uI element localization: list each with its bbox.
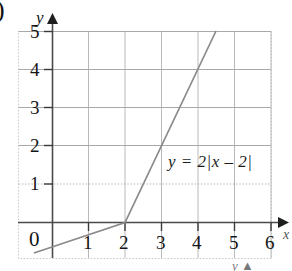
stray-bottom-fragment: y ▲ bbox=[232, 259, 254, 271]
x-tick-label-4: 4 bbox=[192, 233, 202, 252]
y-tick-label-1: 1 bbox=[30, 174, 40, 193]
y-axis-ticks bbox=[44, 32, 53, 185]
x-tick-label-6: 6 bbox=[265, 233, 275, 252]
origin-label-0: 0 bbox=[29, 229, 40, 250]
x-axis-label: x bbox=[283, 228, 289, 242]
y-tick-label-4: 4 bbox=[30, 60, 40, 79]
x-tick-label-1: 1 bbox=[83, 233, 93, 252]
graph-figure: ) bbox=[0, 0, 292, 271]
x-tick-label-2: 2 bbox=[119, 233, 129, 252]
y-tick-label-3: 3 bbox=[30, 98, 40, 117]
equation-annotation: y = 2|x – 2| bbox=[168, 153, 252, 170]
vertical-gridlines bbox=[89, 32, 272, 259]
y-tick-label-2: 2 bbox=[30, 136, 40, 155]
x-axis-ticks bbox=[89, 223, 272, 232]
y-axis-label: y bbox=[36, 9, 44, 26]
y-axis bbox=[47, 13, 58, 258]
x-tick-label-3: 3 bbox=[156, 233, 166, 252]
x-axis bbox=[18, 217, 289, 228]
y-axis-arrow-icon bbox=[47, 13, 58, 24]
graph-canvas bbox=[0, 0, 292, 271]
x-tick-label-5: 5 bbox=[229, 233, 239, 252]
